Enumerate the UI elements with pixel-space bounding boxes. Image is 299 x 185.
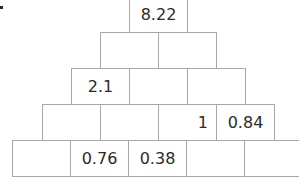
pyramid-cell-r4-c1[interactable]: 0.76 [70, 140, 129, 177]
pyramid-cell-r4-c2[interactable]: 0.38 [128, 140, 187, 177]
pyramid-cell-r4-c3[interactable] [186, 140, 245, 177]
number-pyramid: 8.22 2.1 1 0.84 0.76 0.38 [0, 0, 299, 185]
pyramid-cell-r1-c0[interactable] [100, 32, 159, 69]
pyramid-cell-r3-c0[interactable] [42, 104, 101, 141]
pyramid-cell-r1-c1[interactable] [158, 32, 217, 69]
pyramid-cell-r3-c3[interactable]: 0.84 [216, 104, 275, 141]
pyramid-cell-r4-c4[interactable] [244, 140, 299, 177]
pyramid-cell-r4-c0[interactable] [12, 140, 71, 177]
pyramid-cell-r0-c0[interactable]: 8.22 [129, 0, 188, 33]
pyramid-cell-r2-c2[interactable] [187, 68, 246, 105]
pyramid-cell-r2-c1[interactable] [129, 68, 188, 105]
pyramid-cell-r3-c1[interactable] [100, 104, 159, 141]
pyramid-cell-r2-c0[interactable]: 2.1 [71, 68, 130, 105]
pyramid-cell-r3-c2[interactable]: 1 [158, 104, 217, 141]
